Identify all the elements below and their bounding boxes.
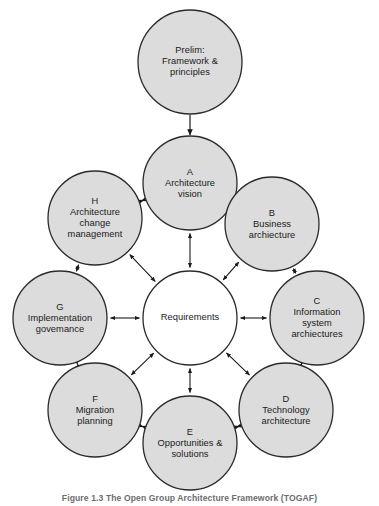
togaf-adm-diagram: Prelim: Framework & principles A Archite…	[0, 0, 379, 506]
node-circle-c[interactable]	[270, 271, 364, 365]
diagram-canvas	[0, 0, 379, 506]
node-circle-f[interactable]	[48, 363, 142, 457]
node-circle-prelim[interactable]	[138, 10, 242, 114]
connector-center-to-h	[130, 255, 155, 282]
connector-d-to-e	[237, 426, 239, 427]
node-circle-b[interactable]	[225, 177, 319, 271]
connector-c-to-d	[301, 363, 302, 365]
connector-e-to-f	[142, 426, 143, 427]
connector-b-to-c	[293, 269, 295, 274]
node-circle-g[interactable]	[13, 271, 107, 365]
connector-h-to-a	[141, 200, 143, 201]
connector-center-to-b	[223, 262, 239, 280]
figure-caption: Figure 1.3 The Open Group Architecture F…	[0, 493, 379, 506]
node-circle-a[interactable]	[143, 136, 237, 230]
node-circle-h[interactable]	[48, 171, 142, 265]
connector-g-to-h	[76, 265, 78, 272]
connector-center-to-d	[226, 353, 249, 375]
node-circle-layer	[13, 10, 364, 490]
connector-center-to-f	[131, 353, 153, 375]
node-circle-center[interactable]	[143, 271, 237, 365]
node-circle-d[interactable]	[239, 363, 333, 457]
node-circle-e[interactable]	[143, 396, 237, 490]
